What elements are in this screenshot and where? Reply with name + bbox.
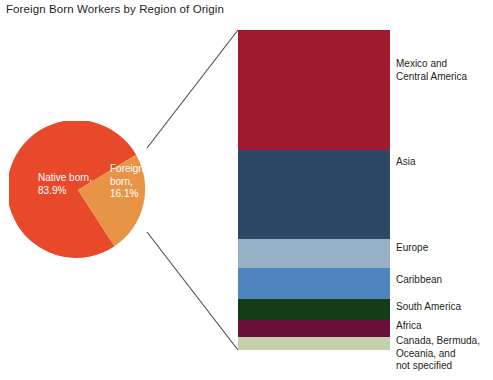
bar-segment-label: Europe [396, 242, 428, 255]
bar-segment-label: Asia [396, 156, 415, 169]
bar-segment-label: South America [396, 301, 461, 314]
bar-segment[interactable] [238, 150, 390, 239]
bar-segment[interactable] [238, 268, 390, 299]
bar-segment[interactable] [238, 337, 390, 350]
bar-segment[interactable] [238, 239, 390, 268]
bar-segment-label: Caribbean [396, 274, 442, 287]
pie-label-foreign-born: Foreign born, 16.1% [110, 163, 156, 201]
bar-segment[interactable] [238, 299, 390, 320]
bar-segment-label: Mexico and Central America [396, 58, 467, 83]
bar-segment[interactable] [238, 320, 390, 337]
chart-figure: Foreign Born Workers by Region of Origin… [0, 0, 493, 380]
bar-segment-label: Canada, Bermuda, Oceania, and not specif… [396, 335, 480, 373]
stacked-bar [238, 30, 390, 350]
bar-segment-label: Africa [396, 320, 422, 333]
segment-label-list: Mexico and Central AmericaAsiaEuropeCari… [396, 30, 493, 380]
bar-segment[interactable] [238, 30, 390, 150]
